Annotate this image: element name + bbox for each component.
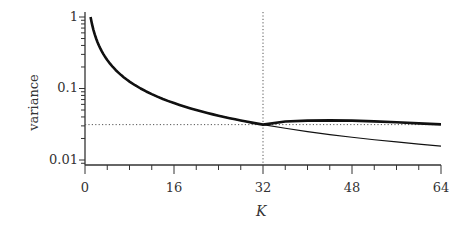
plot-area	[0, 0, 466, 233]
series-thin-line	[91, 17, 441, 146]
x-tick-label: 0	[70, 180, 100, 195]
y-tick-label: 0.01	[28, 152, 78, 167]
x-tick-label: 64	[426, 180, 456, 195]
y-axis-label: variance	[26, 68, 41, 138]
x-tick-label: 32	[248, 180, 278, 195]
x-axis-label: K	[256, 203, 266, 219]
x-tick-label: 48	[337, 180, 367, 195]
y-tick-label: 1	[28, 9, 78, 24]
series-thick-line	[91, 17, 441, 125]
variance-chart: 1 0.1 0.01 0 16 32 48 64 variance K	[0, 0, 466, 233]
x-tick-label: 16	[159, 180, 189, 195]
